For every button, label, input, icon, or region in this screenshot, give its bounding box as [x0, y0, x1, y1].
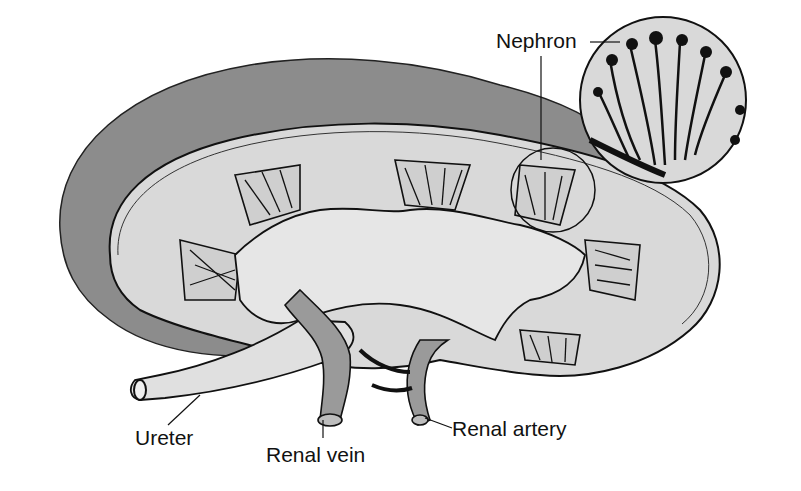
ureter-opening	[134, 380, 146, 400]
renal-artery-opening	[412, 415, 428, 425]
renal-vein-opening	[318, 414, 342, 426]
label-ureter: Ureter	[135, 427, 193, 448]
label-nephron: Nephron	[496, 30, 577, 51]
label-renal-artery: Renal artery	[452, 418, 566, 439]
kidney-diagram	[0, 0, 801, 491]
label-renal-vein: Renal vein	[266, 444, 365, 465]
